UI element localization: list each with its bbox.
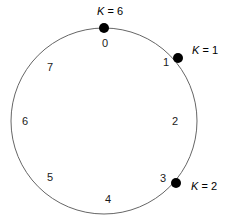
ring-circle <box>11 28 197 214</box>
ring-position-label-1: 1 <box>163 57 169 68</box>
key-equation-k1: = 1 <box>199 44 218 56</box>
key-label-k2: K = 2 <box>191 181 217 192</box>
node-dot-k2[interactable] <box>171 178 181 188</box>
key-equation-k6: = 6 <box>104 5 123 17</box>
key-label-k1: K = 1 <box>192 45 218 56</box>
ring-position-label-2: 2 <box>172 116 178 127</box>
ring-position-label-5: 5 <box>47 172 53 183</box>
ring-position-label-6: 6 <box>22 116 28 127</box>
key-label-k6: K = 6 <box>97 6 123 17</box>
ring-position-label-4: 4 <box>105 194 111 205</box>
hash-ring-diagram: 0 1 2 3 4 5 6 7 K = 6 K = 1 K = 2 <box>0 0 227 223</box>
node-dot-k6[interactable] <box>99 23 109 33</box>
node-dot-k1[interactable] <box>173 53 183 63</box>
ring-position-label-7: 7 <box>47 62 53 73</box>
key-equation-k2: = 2 <box>198 180 217 192</box>
ring-position-label-3: 3 <box>160 173 166 184</box>
ring-position-label-0: 0 <box>102 38 108 49</box>
